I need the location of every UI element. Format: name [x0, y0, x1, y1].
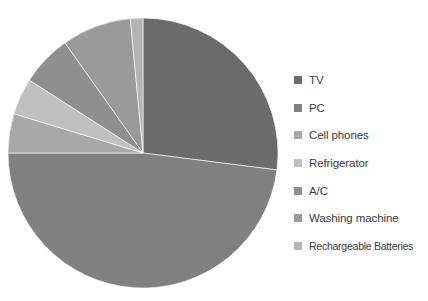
legend-item-label: Refrigerator — [309, 157, 369, 169]
legend-item-label: PC — [309, 102, 325, 114]
pie-chart-plot-area — [0, 0, 290, 301]
legend-item-label: Washing machine — [309, 212, 398, 224]
legend-item-label: TV — [309, 74, 324, 86]
legend-swatch-icon — [294, 187, 302, 195]
pie-chart-figure: TVPCCell phonesRefrigeratorA/CWashing ma… — [0, 0, 428, 301]
legend-swatch-icon — [294, 159, 302, 167]
legend-swatch-icon — [294, 104, 302, 112]
pie-slice — [143, 18, 278, 170]
legend-item[interactable]: A/C — [294, 177, 428, 205]
legend-item-label: Cell phones — [309, 129, 369, 141]
legend-swatch-icon — [294, 214, 302, 222]
legend-swatch-icon — [294, 131, 302, 139]
chart-legend: TVPCCell phonesRefrigeratorA/CWashing ma… — [294, 66, 428, 260]
legend-item[interactable]: PC — [294, 94, 428, 122]
legend-item-label: A/C — [309, 185, 328, 197]
legend-item[interactable]: Cell phones — [294, 121, 428, 149]
legend-item[interactable]: Refrigerator — [294, 149, 428, 177]
legend-item-label: Rechargeable Batteries — [309, 240, 413, 252]
legend-item[interactable]: TV — [294, 66, 428, 94]
legend-item[interactable]: Rechargeable Batteries — [294, 232, 428, 260]
pie-slice — [8, 153, 277, 288]
pie-slice-group — [8, 18, 278, 288]
legend-swatch-icon — [294, 76, 302, 84]
legend-item[interactable]: Washing machine — [294, 204, 428, 232]
legend-swatch-icon — [294, 242, 302, 250]
